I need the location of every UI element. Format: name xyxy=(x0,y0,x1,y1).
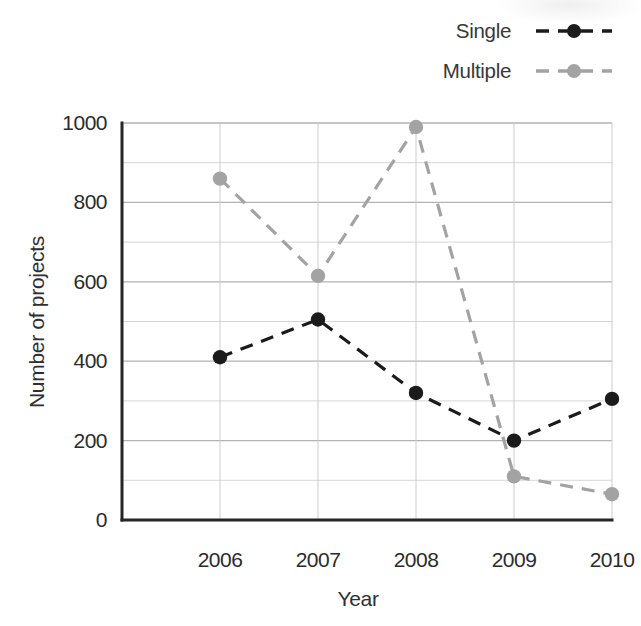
y-tick-label-400: 400 xyxy=(73,349,107,372)
data-point-multiple-2007 xyxy=(311,269,325,283)
y-tick-label-0: 0 xyxy=(96,508,107,531)
data-point-single-2008 xyxy=(409,386,423,400)
data-point-multiple-2009 xyxy=(507,469,521,483)
x-tick-label-2010: 2010 xyxy=(590,548,635,571)
data-point-multiple-2010 xyxy=(605,487,619,501)
x-axis-title: Year xyxy=(337,587,378,611)
chart-figure: Single Multiple 020040060080010002006200… xyxy=(0,0,641,626)
line-chart-canvas: 0200400600800100020062007200820092010 xyxy=(0,0,641,626)
data-point-single-2007 xyxy=(311,312,325,326)
data-point-single-2010 xyxy=(605,392,619,406)
y-axis-title: Number of projects xyxy=(25,236,49,408)
data-point-single-2006 xyxy=(213,350,227,364)
y-tick-label-600: 600 xyxy=(73,270,107,293)
x-tick-label-2008: 2008 xyxy=(394,548,439,571)
data-point-multiple-2006 xyxy=(213,171,227,185)
x-tick-label-2007: 2007 xyxy=(296,548,341,571)
x-tick-label-2009: 2009 xyxy=(492,548,537,571)
data-point-single-2009 xyxy=(507,433,521,447)
data-point-multiple-2008 xyxy=(409,120,423,134)
y-tick-label-800: 800 xyxy=(73,190,107,213)
y-tick-label-1000: 1000 xyxy=(62,111,107,134)
y-tick-label-200: 200 xyxy=(73,429,107,452)
x-tick-label-2006: 2006 xyxy=(198,548,243,571)
